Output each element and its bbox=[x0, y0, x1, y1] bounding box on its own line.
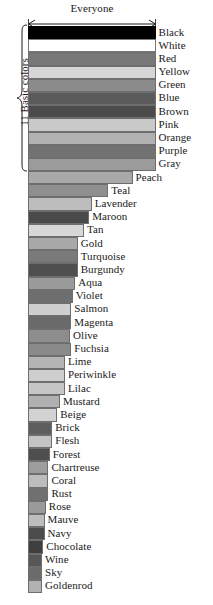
bar bbox=[28, 554, 42, 567]
bar bbox=[28, 329, 70, 342]
bar bbox=[28, 527, 45, 540]
bar bbox=[28, 158, 156, 171]
bar-label: White bbox=[159, 39, 186, 53]
bar bbox=[28, 501, 46, 514]
bar-label: Navy bbox=[48, 527, 72, 541]
bar bbox=[28, 92, 156, 105]
bar bbox=[28, 197, 92, 210]
bar-label: Pink bbox=[159, 118, 179, 132]
bar-label: Yellow bbox=[159, 65, 191, 79]
bar-label: Coral bbox=[51, 474, 76, 488]
bar bbox=[28, 422, 52, 435]
bar-label: Violet bbox=[76, 289, 103, 303]
bar-label: Lime bbox=[68, 355, 91, 369]
bar-label: Flesh bbox=[55, 434, 79, 448]
bar-label: Red bbox=[159, 52, 177, 66]
bar-label: Brown bbox=[159, 105, 189, 119]
bar bbox=[28, 79, 156, 92]
bar bbox=[28, 184, 108, 197]
group-brace: 11 Basic colors bbox=[2, 24, 28, 172]
bar-label: Burgundy bbox=[81, 263, 125, 277]
bar bbox=[28, 118, 156, 131]
bar-label: Sky bbox=[45, 566, 62, 580]
bar bbox=[28, 66, 156, 79]
bar-label: Turquoise bbox=[81, 250, 126, 264]
bar-label: Lilac bbox=[68, 382, 91, 396]
bar bbox=[28, 435, 52, 448]
bar-label: Gray bbox=[159, 157, 181, 171]
bar-label: Mauve bbox=[48, 513, 79, 527]
bar-label: Lavender bbox=[95, 197, 137, 211]
bar-label: Forest bbox=[53, 448, 81, 462]
bar bbox=[28, 105, 156, 118]
bar-label: Gold bbox=[81, 237, 103, 251]
bar bbox=[28, 461, 48, 474]
bar-label: Orange bbox=[159, 131, 192, 145]
bar bbox=[28, 395, 60, 408]
axis-annotation-label: Everyone bbox=[28, 2, 156, 14]
bar-label: Brick bbox=[55, 421, 80, 435]
bar-label: Beige bbox=[60, 408, 86, 422]
bar-label: Goldenrod bbox=[45, 579, 93, 593]
bar bbox=[28, 132, 156, 145]
bar-label: Teal bbox=[111, 184, 130, 198]
bar bbox=[28, 408, 57, 421]
bar bbox=[28, 303, 71, 316]
bar-label: Chartreuse bbox=[51, 461, 99, 475]
bar-label: Blue bbox=[159, 91, 180, 105]
bar bbox=[28, 277, 75, 290]
bar bbox=[28, 514, 45, 527]
color-frequency-chart: Everyone 11 Basic colors BlackWhiteRedYe… bbox=[0, 0, 213, 605]
bar bbox=[28, 488, 48, 501]
bar bbox=[28, 540, 43, 553]
bar bbox=[28, 263, 78, 276]
bar bbox=[28, 211, 89, 224]
bar-label: Black bbox=[159, 26, 185, 40]
bar-label: Periwinkle bbox=[68, 368, 116, 382]
axis-span-arrow bbox=[26, 15, 158, 25]
bar bbox=[28, 474, 48, 487]
bar bbox=[28, 171, 133, 184]
bar-label: Maroon bbox=[92, 210, 127, 224]
bar bbox=[28, 290, 73, 303]
bar bbox=[28, 52, 156, 65]
bar bbox=[28, 580, 42, 593]
bar bbox=[28, 250, 78, 263]
bar bbox=[28, 369, 65, 382]
bar bbox=[28, 237, 78, 250]
bar-label: Wine bbox=[45, 553, 69, 567]
bar bbox=[28, 26, 156, 39]
bar-label: Chocolate bbox=[46, 540, 91, 554]
bar-label: Olive bbox=[73, 329, 98, 343]
bar bbox=[28, 382, 65, 395]
bar bbox=[28, 145, 156, 158]
bar-label: Peach bbox=[136, 171, 163, 185]
bar bbox=[28, 448, 50, 461]
bar-label: Tan bbox=[87, 223, 103, 237]
bar-label: Salmon bbox=[74, 302, 108, 316]
bar-label: Magenta bbox=[74, 316, 113, 330]
bar bbox=[28, 316, 71, 329]
bar bbox=[28, 343, 71, 356]
bar-label: Green bbox=[159, 78, 186, 92]
bar-label: Fuchsia bbox=[74, 342, 109, 356]
bar bbox=[28, 224, 84, 237]
bar bbox=[28, 356, 65, 369]
bar-label: Purple bbox=[159, 144, 188, 158]
bar bbox=[28, 39, 156, 52]
bar-label: Rust bbox=[51, 487, 71, 501]
bar-label: Rose bbox=[49, 500, 71, 514]
bar-label: Aqua bbox=[78, 276, 102, 290]
bar-label: Mustard bbox=[63, 395, 100, 409]
bar bbox=[28, 567, 42, 580]
